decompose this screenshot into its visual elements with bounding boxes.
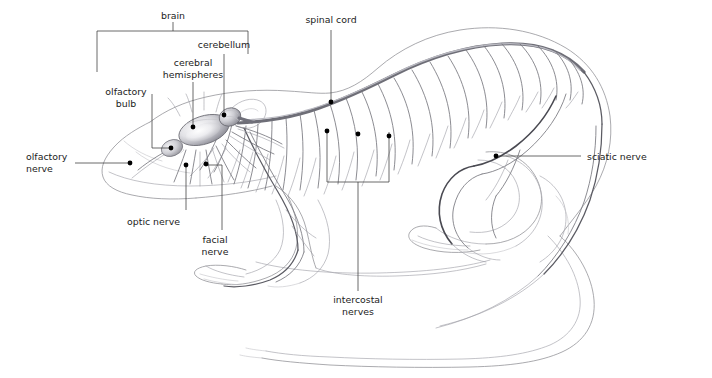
label-intercostal-nerves-line2: nerves — [342, 306, 374, 317]
sciatic-nerve-dot — [494, 154, 499, 159]
label-olfactory-nerve-line1: olfactory — [26, 151, 68, 162]
figure-background — [0, 0, 712, 378]
label-facial-nerve-line2: nerve — [202, 246, 229, 257]
cerebral-hemispheres-dot — [191, 125, 196, 130]
label-olfactory-bulb-line2: bulb — [116, 98, 136, 109]
label-olfactory-nerve-line2: nerve — [26, 163, 53, 174]
facial-nerve-dot — [204, 162, 209, 167]
intercostal-nerve-dot-1 — [325, 129, 330, 134]
intercostal-nerve-dot-2 — [356, 132, 361, 137]
cerebellum-dot — [222, 113, 227, 118]
spinal-cord-dot — [329, 100, 334, 105]
label-cerebral-hemispheres-line1: cerebral — [174, 57, 213, 68]
label-olfactory-bulb-line1: olfactory — [105, 86, 147, 97]
intercostal-nerve-dot-3 — [387, 134, 392, 139]
label-brain: brain — [161, 10, 185, 21]
label-cerebral-hemispheres-line2: hemispheres — [163, 69, 223, 80]
label-optic-nerve: optic nerve — [127, 216, 180, 227]
optic-nerve-dot — [184, 163, 189, 168]
label-cerebellum: cerebellum — [198, 39, 250, 50]
olfactory-nerve-dot — [128, 161, 133, 166]
nervous-system-figure: brain cerebellum cerebral hemispheres ol… — [0, 0, 712, 378]
olfactory-bulb-dot — [169, 146, 174, 151]
label-facial-nerve-line1: facial — [202, 234, 227, 245]
label-spinal-cord: spinal cord — [305, 14, 356, 25]
label-intercostal-nerves-line1: intercostal — [333, 294, 382, 305]
label-sciatic-nerve: sciatic nerve — [587, 151, 647, 162]
